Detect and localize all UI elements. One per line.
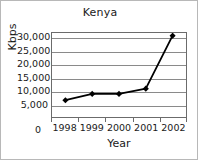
data-point-marker [62, 97, 68, 103]
x-axis-tick-labels: 19981999200020012002 [51, 122, 187, 134]
data-point-marker [116, 91, 122, 97]
chart-figure: Kenya Kbps 30,00025,00020,00015,00010,00… [0, 0, 198, 160]
data-series-line [52, 33, 186, 117]
data-point-marker [170, 33, 176, 39]
data-point-marker [89, 91, 95, 97]
series-line [65, 36, 172, 101]
chart-title: Kenya [1, 6, 198, 19]
y-axis-tick-label: 25,000 [17, 46, 48, 56]
y-axis-tick-labels: 30,00025,00020,00015,00010,0005,000 [17, 32, 48, 118]
y-axis-tick-label: 20,000 [17, 59, 48, 69]
y-axis-origin-label: 0 [35, 125, 41, 135]
y-axis-tick-label: 10,000 [17, 86, 48, 96]
x-axis-title: Year [51, 137, 187, 150]
y-axis-tick-label: 30,000 [17, 32, 48, 42]
data-point-marker [143, 86, 149, 92]
x-axis-tick-label: 2002 [156, 122, 190, 134]
y-axis-tick-label: 15,000 [17, 73, 48, 83]
y-axis-tick-label: 5,000 [17, 100, 48, 110]
plot-area [51, 32, 187, 118]
